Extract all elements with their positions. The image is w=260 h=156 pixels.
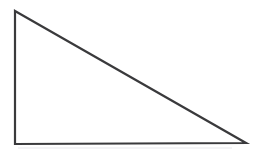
right-triangle-drawing [0,0,260,156]
figure-canvas [0,0,260,156]
scan-shadow-line [18,147,232,149]
right-triangle-outline [15,11,246,144]
